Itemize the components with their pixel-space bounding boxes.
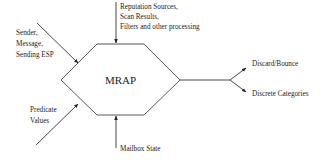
categories-output-arrow [230, 80, 246, 92]
sender-label-line-1: Sender, [16, 29, 38, 37]
sender-label-line-2: Message, [16, 40, 43, 48]
mailbox-state-label: Mailbox State [120, 145, 161, 153]
discard-output-arrow [230, 68, 246, 80]
top-input-label-line-2: Scan Results, [120, 13, 159, 21]
discrete-categories-label: Discrete Categories [252, 90, 309, 98]
mrap-label: MRAP [105, 74, 136, 86]
mrap-diagram: MRAP Reputation Sources, Scan Results, F… [0, 0, 325, 163]
predicate-label-line-2: Values [30, 117, 49, 125]
top-input-label-line-1: Reputation Sources, [120, 3, 178, 11]
sender-label-line-3: Sending ESP [16, 51, 54, 59]
predicate-label-line-1: Predicate [30, 106, 57, 114]
discard-bounce-label: Discard/Bounce [252, 60, 298, 68]
top-input-label-line-3: Filters and other processing [120, 23, 200, 31]
